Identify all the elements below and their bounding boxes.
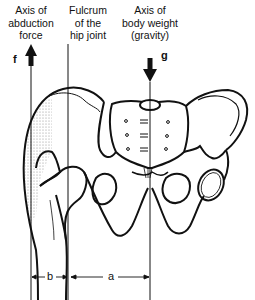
right-acetabulum (193, 165, 228, 204)
right-ischium (152, 188, 204, 234)
right-iliac-inner (198, 96, 239, 136)
sacrum (110, 101, 188, 168)
right-obturator (163, 174, 190, 203)
dimension-b-label: b (45, 270, 55, 282)
dimension-a-label: a (106, 270, 116, 282)
gravity-arrow-icon (143, 58, 157, 82)
left-ala (98, 102, 116, 157)
femur-inner (56, 195, 67, 300)
gravity-symbol: g (161, 49, 168, 61)
abduction-force-arrow-icon (25, 44, 37, 66)
left-iliac-inner (46, 93, 100, 112)
abduction-force-symbol: f (13, 53, 17, 65)
femur-shaft-line (50, 200, 54, 240)
sacral-foramina (125, 120, 170, 151)
right-ala-lower (184, 146, 226, 159)
right-acetabulum-wall (224, 150, 228, 180)
pelvis-diagram (0, 0, 255, 300)
